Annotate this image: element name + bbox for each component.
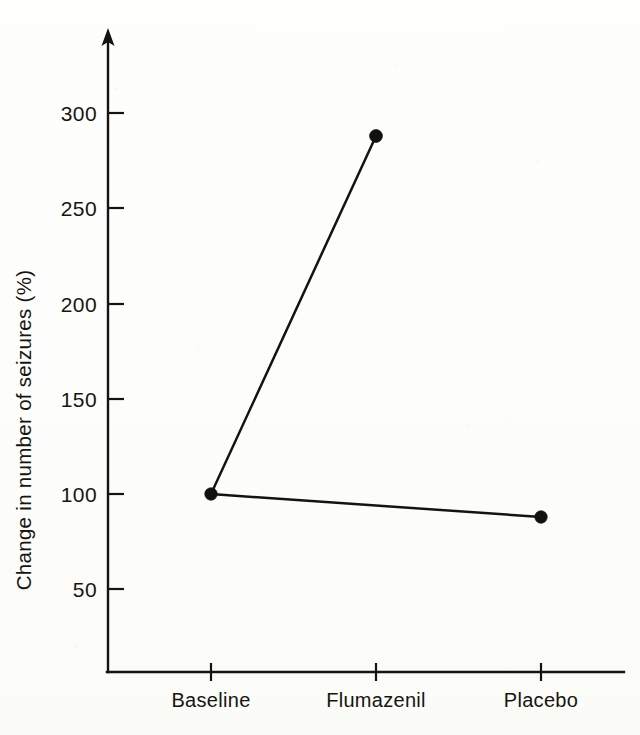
y-tick-label-200: 200: [61, 293, 97, 316]
y-tick-label-100: 100: [61, 483, 97, 506]
y-axis-title: Change in number of seizures (%): [12, 270, 35, 591]
y-tick-label-250: 250: [61, 197, 97, 220]
x-tick-label-baseline: Baseline: [171, 689, 250, 711]
x-tick-label-flumazenil: Flumazenil: [326, 689, 426, 711]
figure-root: 300 250 200 150 100 50 Change in number …: [0, 0, 640, 735]
y-tick-label-150: 150: [61, 388, 97, 411]
y-tick-label-300: 300: [61, 102, 97, 125]
data-point-flumazenil: [370, 130, 383, 143]
series-polyline: [211, 136, 541, 517]
line-chart: 300 250 200 150 100 50 Change in number …: [0, 0, 640, 735]
y-tick-label-50: 50: [73, 578, 97, 601]
data-point-placebo: [535, 511, 547, 523]
data-point-baseline: [205, 488, 217, 500]
x-tick-label-placebo: Placebo: [504, 689, 578, 711]
